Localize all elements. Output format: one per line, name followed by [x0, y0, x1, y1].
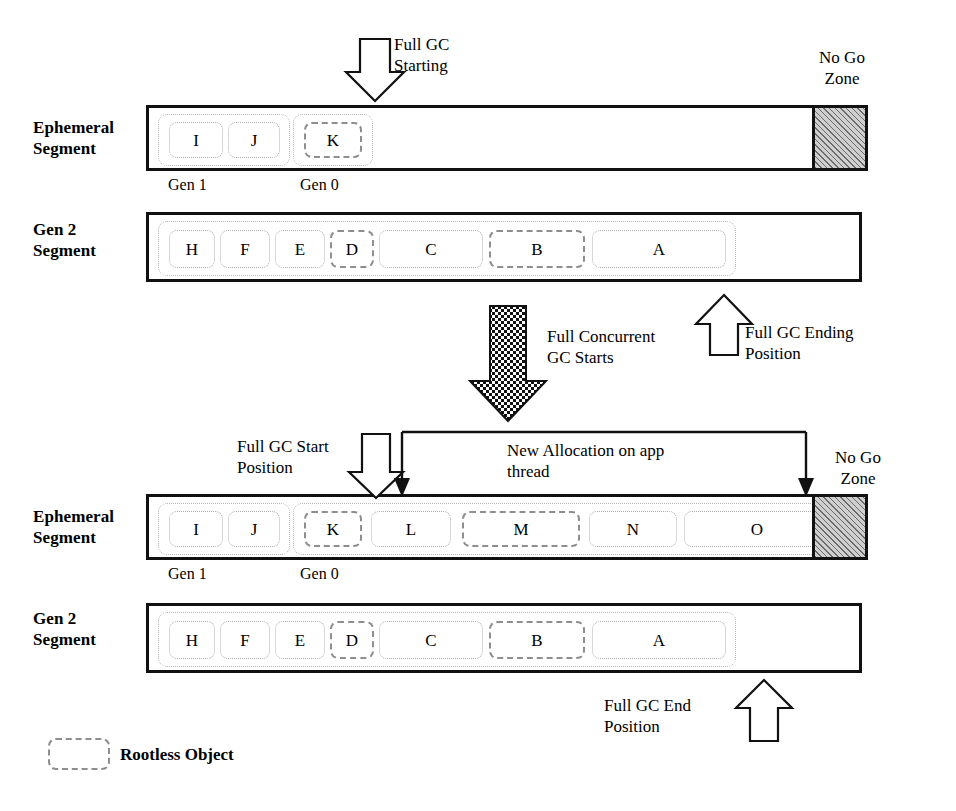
row-label-gen2-segment-top: Gen 2 Segment: [33, 219, 145, 261]
label-no-go-zone-top: No Go Zone: [792, 47, 892, 89]
object-cell: K: [304, 511, 362, 547]
caption-gen1-bottom: Gen 1: [168, 565, 207, 583]
ephemeral-segment-bottom: I J K L M N O: [146, 494, 868, 560]
full-concurrent-gc-starts-down-arrow-icon: [470, 306, 546, 421]
annotation-full-gc-ending-position: Full GC Ending Position: [745, 322, 925, 364]
object-cell: J: [228, 122, 280, 158]
object-cell: N: [589, 511, 677, 547]
object-cell: A: [592, 230, 726, 268]
row-label-ephemeral-segment-bottom: Ephemeral Segment: [33, 506, 145, 548]
object-cell: I: [169, 122, 223, 158]
object-cell: B: [489, 230, 585, 268]
object-cell: C: [379, 621, 483, 659]
object-cell: K: [304, 122, 362, 158]
no-go-zone-bottom: [812, 494, 868, 560]
row-label-ephemeral-segment-top: Ephemeral Segment: [33, 117, 145, 159]
gen2-segment-bottom: H F E D C B A: [146, 603, 862, 673]
object-cell: F: [220, 230, 270, 268]
object-cell: O: [684, 511, 830, 547]
object-cell: L: [371, 511, 451, 547]
row-label-gen2-segment-bottom: Gen 2 Segment: [33, 608, 145, 650]
object-cell: I: [169, 511, 223, 547]
annotation-full-gc-start-position: Full GC Start Position: [237, 436, 377, 478]
object-cell: D: [330, 621, 374, 659]
object-cell: B: [489, 621, 585, 659]
label-no-go-zone-bottom: No Go Zone: [813, 447, 903, 489]
annotation-new-allocation: New Allocation on app thread: [507, 440, 727, 482]
diagram-canvas: Full GC Starting No Go Zone Ephemeral Se…: [0, 0, 956, 811]
object-cell: E: [275, 230, 325, 268]
object-cell: M: [462, 511, 580, 547]
gen2-segment-top: H F E D C B A: [146, 212, 862, 282]
annotation-full-gc-starting: Full GC Starting: [394, 34, 524, 76]
object-cell: H: [169, 621, 215, 659]
object-cell: A: [592, 621, 726, 659]
legend-rootless-swatch-icon: [48, 738, 110, 770]
object-cell: F: [220, 621, 270, 659]
ephemeral-segment-top: I J K: [146, 105, 868, 171]
annotation-full-concurrent-gc-starts: Full Concurrent GC Starts: [547, 326, 717, 368]
object-cell: E: [275, 621, 325, 659]
caption-gen0-bottom: Gen 0: [300, 565, 339, 583]
no-go-zone-top: [812, 105, 868, 171]
object-cell: J: [228, 511, 280, 547]
object-cell: H: [169, 230, 215, 268]
caption-gen1-top: Gen 1: [168, 176, 207, 194]
object-cell: D: [330, 230, 374, 268]
object-cell: C: [379, 230, 483, 268]
legend-rootless-label: Rootless Object: [120, 745, 234, 765]
annotation-full-gc-end-position: Full GC End Position: [604, 695, 764, 737]
caption-gen0-top: Gen 0: [300, 176, 339, 194]
